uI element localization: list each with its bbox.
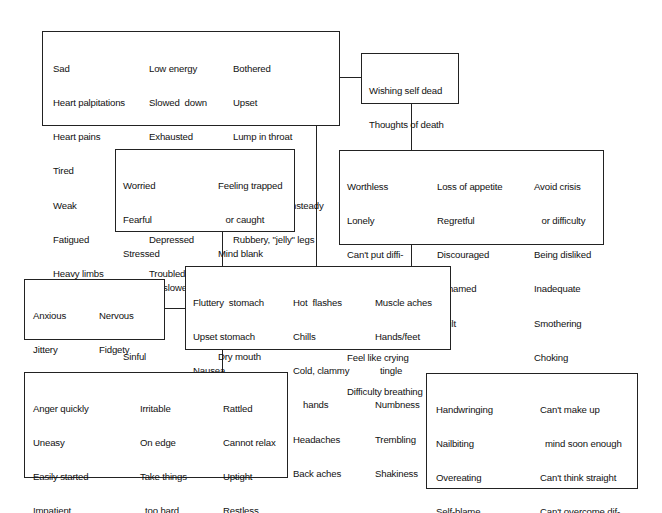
symptom: Choking	[534, 352, 591, 363]
symptom: tingle	[375, 365, 432, 376]
symptom: Can't make up	[540, 404, 622, 415]
symptom: Uneasy	[33, 437, 138, 448]
symptom: Hands/feet	[375, 331, 432, 342]
symptom: Anxious	[33, 310, 72, 321]
symptom: too hard	[140, 505, 194, 513]
symptom: Heart pains	[53, 131, 125, 142]
symptom: Hot flashes	[293, 297, 349, 308]
symptom: Overeating	[436, 472, 519, 483]
column: Anger quickly Uneasy Easily started Impa…	[33, 380, 138, 513]
symptom: Muscle aches	[375, 297, 432, 308]
symptom: Shakiness	[375, 468, 432, 479]
symptom: Stressed	[123, 248, 192, 259]
column: Can't make up mind soon enough Can't thi…	[540, 381, 622, 513]
symptom: On edge	[140, 437, 194, 448]
symptom: Upset stomach	[193, 331, 264, 342]
box-death-thoughts: Wishing self dead Thoughts of death Floa…	[361, 53, 459, 104]
symptom: Being disliked	[534, 249, 591, 260]
symptom: Heavy limbs	[53, 268, 125, 279]
box-irritable: Anger quickly Uneasy Easily started Impa…	[24, 372, 288, 478]
symptom: Handwringing	[436, 404, 519, 415]
symptom: Worthless	[347, 181, 423, 192]
symptom: Sad	[53, 63, 125, 74]
symptom: Thoughts of death	[369, 119, 444, 130]
symptom: Fidgety	[99, 344, 153, 355]
column: Handwringing Nailbiting Overeating Self-…	[436, 381, 519, 513]
symptom: Nervous	[99, 310, 153, 321]
box-depressive-physical: Sad Heart palpitations Heart pains Tired…	[42, 31, 340, 126]
symptom: Regretful	[437, 215, 502, 226]
symptom: or caught	[218, 214, 282, 225]
box-worry: Worried Fearful Stressed Thinking slowed…	[115, 149, 295, 232]
symptom: Loss of appetite	[437, 181, 502, 192]
symptom: Numbness	[375, 399, 432, 410]
box-somatic: Fluttery stomach Upset stomach Nausea Di…	[185, 266, 451, 350]
column: Muscle aches Hands/feet tingle Numbness …	[375, 274, 432, 502]
symptom: Avoid crisis	[534, 181, 591, 192]
symptom: Cold, clammy	[293, 365, 349, 376]
column: Avoid crisis or difficulty Being dislike…	[534, 158, 591, 386]
symptom: Can't overcome dif-	[540, 506, 622, 513]
symptom: Can't put diffi-	[347, 249, 423, 260]
symptom: Restless	[223, 505, 276, 513]
symptom: Can't think straight	[540, 472, 622, 483]
symptom: Headaches	[293, 434, 349, 445]
box-anxious: Anxious Jittery Tense Keyed up Nervous F…	[24, 279, 165, 340]
column: Hot flashes Chills Cold, clammy hands He…	[293, 274, 349, 502]
symptom: or difficulty	[534, 215, 591, 226]
symptom: Slowed down	[149, 97, 207, 108]
symptom: Upset	[233, 97, 324, 108]
symptom: Cannot relax	[223, 437, 276, 448]
column: Irritable On edge Take things too hard D…	[140, 380, 194, 513]
symptom: Self-blame	[436, 506, 519, 513]
symptom: Fluttery stomach	[193, 297, 264, 308]
symptom: Back aches	[293, 468, 349, 479]
symptom: Discouraged	[437, 249, 502, 260]
symptom: Exhausted	[149, 131, 207, 142]
symptom: Nailbiting	[436, 438, 519, 449]
symptom: Bothered	[233, 63, 324, 74]
symptom: Wishing self dead	[369, 85, 444, 96]
symptom: Feeling trapped	[218, 180, 282, 191]
symptom: hands	[293, 399, 349, 410]
symptom: Take things	[140, 471, 194, 482]
connector-depressive-to-death	[339, 77, 361, 78]
symptom: Anger quickly	[33, 403, 138, 414]
symptom: Smothering	[534, 318, 591, 329]
symptom: Chills	[293, 331, 349, 342]
box-worthless: Worthless Lonely Can't put diffi- cultie…	[339, 150, 604, 245]
symptom: Heart palpitations	[53, 97, 125, 108]
symptom: Worried	[123, 180, 192, 191]
symptom: Fearful	[123, 214, 192, 225]
symptom: Jittery	[33, 344, 72, 355]
symptom: Fatigued	[53, 234, 125, 245]
symptom: Easily started	[33, 471, 138, 482]
symptom: Trembling	[375, 434, 432, 445]
symptom: Inadequate	[534, 283, 591, 294]
symptom: Mind blank	[218, 248, 282, 259]
symptom: Rattled	[223, 403, 276, 414]
symptom: Low energy	[149, 63, 207, 74]
symptom: mind soon enough	[540, 438, 622, 449]
symptom: Irritable	[140, 403, 194, 414]
symptom: Impatient	[33, 505, 138, 513]
symptom: Lonely	[347, 215, 423, 226]
symptom: Uptight	[223, 471, 276, 482]
box-behavioral: Handwringing Nailbiting Overeating Self-…	[426, 373, 638, 489]
column: Rattled Cannot relax Uptight Restless Ov…	[223, 380, 276, 513]
symptom: Lump in throat	[233, 131, 324, 142]
